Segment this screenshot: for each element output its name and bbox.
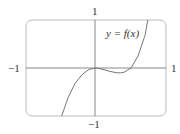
- y-tick-top: 1: [92, 6, 98, 17]
- x-tick-right: 1: [171, 63, 177, 74]
- y-tick-bottom: −1: [88, 119, 100, 130]
- function-plot: [0, 0, 180, 134]
- function-label: y = f(x): [106, 27, 139, 39]
- x-tick-left: −1: [8, 63, 20, 74]
